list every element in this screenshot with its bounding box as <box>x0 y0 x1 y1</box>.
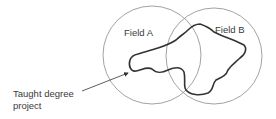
pointer-arrow <box>82 73 128 91</box>
venn-diagram: Field A Field B Taught degree project <box>0 0 276 119</box>
circle-field-b <box>166 8 262 104</box>
label-field-b: Field B <box>215 24 245 35</box>
region-label-line2: project <box>13 100 42 111</box>
label-field-a: Field A <box>124 27 154 38</box>
region-label-line1: Taught degree <box>13 88 74 99</box>
